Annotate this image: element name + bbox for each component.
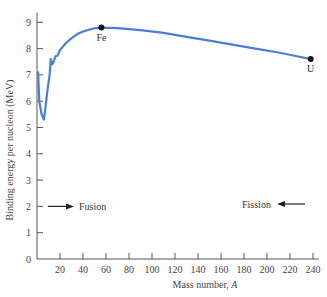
x-tick-label: 60 [101,264,111,275]
x-tick-label: 40 [78,264,88,275]
x-tick-label: 100 [145,264,160,275]
y-tick-label: 5 [26,122,31,133]
x-tick-label: 220 [283,264,298,275]
fusion-arrowhead-icon [66,203,74,209]
x-tick-label: 20 [55,264,65,275]
y-tick-label: 1 [26,227,31,238]
y-tick-label: 2 [26,201,31,212]
x-tick-label: 160 [214,264,229,275]
x-tick-label: 180 [237,264,252,275]
y-tick-label: 6 [26,96,31,107]
y-tick-label: 8 [26,43,31,54]
y-tick-label: 0 [26,254,31,265]
y-tick-label: 9 [26,17,31,28]
fusion-label: Fusion [79,201,106,212]
y-axis-ticks: 0123456789 [26,17,43,265]
point-marker-fe [98,25,104,31]
y-tick-label: 7 [26,69,31,80]
binding-energy-curve [38,28,311,120]
point-label-u: U [307,63,315,74]
x-tick-label: 80 [124,264,134,275]
axes [37,12,319,259]
x-tick-label: 240 [306,264,321,275]
y-tick-label: 3 [26,175,31,186]
point-label-fe: Fe [96,32,107,43]
y-axis-title: Binding energy per nucleon (MeV) [4,80,16,221]
binding-energy-chart: 0123456789 20406080100120140160180200220… [0,0,327,297]
fission-label: Fission [242,199,271,210]
y-tick-label: 4 [26,148,31,159]
x-tick-label: 120 [168,264,183,275]
x-tick-label: 200 [260,264,275,275]
x-tick-label: 140 [191,264,206,275]
annotations: FusionFission [48,199,305,212]
x-axis-title: Mass number, A [173,279,239,290]
point-marker-u [308,56,314,62]
x-axis-ticks: 20406080100120140160180200220240 [55,253,321,275]
fission-arrowhead-icon [277,201,285,207]
labeled-points: FeU [96,25,315,75]
